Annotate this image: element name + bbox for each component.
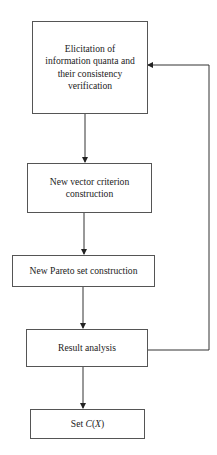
node-result-analysis: Result analysis bbox=[26, 329, 148, 367]
node-result-analysis-label: Result analysis bbox=[58, 342, 116, 355]
node-elicitation-label: Elicitation of information quanta and th… bbox=[41, 43, 139, 93]
node-set-cx: Set C(X) bbox=[30, 409, 145, 439]
label-prefix: Set bbox=[71, 418, 86, 429]
feedback-loop-arrow bbox=[148, 65, 209, 350]
label-paren-close: ) bbox=[101, 418, 104, 429]
node-set-cx-label: Set C(X) bbox=[71, 418, 104, 431]
node-pareto-set-label: New Pareto set construction bbox=[30, 265, 138, 278]
node-vector-criterion: New vector criterion construction bbox=[27, 163, 152, 213]
node-vector-criterion-label: New vector criterion construction bbox=[38, 176, 141, 201]
node-elicitation: Elicitation of information quanta and th… bbox=[32, 21, 148, 114]
node-pareto-set: New Pareto set construction bbox=[12, 255, 155, 287]
